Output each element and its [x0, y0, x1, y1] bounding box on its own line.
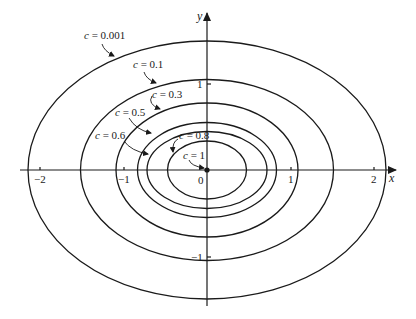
arrow-c-0.001 [102, 44, 114, 56]
arrow-c-0.1 [144, 72, 156, 83]
label-c-0.001: c = 0.001 [84, 29, 125, 41]
x-tick-label-2: 2 [371, 173, 377, 185]
arrow-c-1 [189, 160, 204, 168]
x-tick-label-1: 1 [288, 173, 294, 185]
x-axis-label: x [388, 171, 395, 185]
label-c-0.5: c = 0.5 [115, 106, 146, 118]
label-c-0.6: c = 0.6 [95, 129, 126, 141]
x-tick-label--1: −1 [118, 173, 130, 185]
arrow-c-0.5 [129, 118, 151, 133]
y-axis-label: y [196, 9, 203, 23]
y-tick-label-1: 1 [197, 78, 203, 90]
label-c-0.8: c = 0.8 [179, 129, 210, 141]
x-tick-label--2: −2 [34, 173, 46, 185]
level-curves-diagram: −2 −1 0 1 2 1 −1 x y c = 0.001 c = 0.1 c… [0, 0, 416, 319]
arrow-c-0.8 [173, 139, 178, 152]
origin-label: 0 [198, 174, 204, 186]
origin-point-c-1 [204, 167, 209, 172]
label-c-1: c = 1 [183, 149, 205, 161]
y-tick-label--1: −1 [191, 251, 203, 263]
arrow-c-0.6 [124, 141, 148, 154]
label-c-0.3: c = 0.3 [152, 88, 183, 100]
label-c-0.1: c = 0.1 [133, 58, 163, 70]
axes [20, 13, 396, 306]
